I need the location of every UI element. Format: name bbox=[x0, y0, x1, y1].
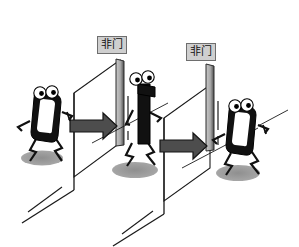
char1-right-leg bbox=[147, 143, 155, 165]
char1-right-arm bbox=[149, 112, 161, 122]
gate-2-group[interactable] bbox=[113, 64, 258, 246]
character-0-left[interactable] bbox=[18, 86, 72, 161]
figure-canvas: 非门 非门 bbox=[0, 0, 299, 247]
char0-left-arm bbox=[18, 121, 30, 131]
arrow-1-group bbox=[70, 113, 117, 139]
char0r-left-arm bbox=[213, 134, 225, 144]
illustration-svg bbox=[0, 0, 299, 247]
gate-label-not-1: 非门 bbox=[97, 36, 127, 54]
character-0-right[interactable] bbox=[213, 99, 268, 175]
gate-1-wall-outline bbox=[74, 60, 120, 177]
gate-1-door-panel[interactable] bbox=[116, 59, 124, 146]
char1-pupil-left bbox=[135, 78, 140, 83]
arrow-right-icon bbox=[70, 113, 117, 139]
char0-pupil-right bbox=[51, 90, 56, 95]
gate-label-not-2: 非门 bbox=[186, 43, 216, 61]
char1-pupil-right bbox=[147, 76, 152, 81]
char0r-right-hand bbox=[263, 125, 266, 134]
arrow-right-icon bbox=[160, 133, 207, 159]
char0-right-hand bbox=[67, 112, 70, 121]
gate-2-floor-line-a bbox=[113, 214, 164, 246]
char0-pupil-left bbox=[39, 91, 44, 96]
shadow-char-1-middle bbox=[112, 162, 158, 178]
arrow-2-group bbox=[160, 133, 207, 159]
gate-2-door-panel[interactable] bbox=[206, 64, 214, 151]
character-1-middle[interactable] bbox=[126, 71, 161, 166]
right-perspective-line bbox=[258, 110, 288, 126]
gate-1-floor-line-a bbox=[22, 190, 74, 223]
char1-left-arm bbox=[126, 110, 133, 125]
char0r-pupil-left bbox=[234, 104, 239, 109]
char0r-pupil-right bbox=[246, 103, 251, 108]
